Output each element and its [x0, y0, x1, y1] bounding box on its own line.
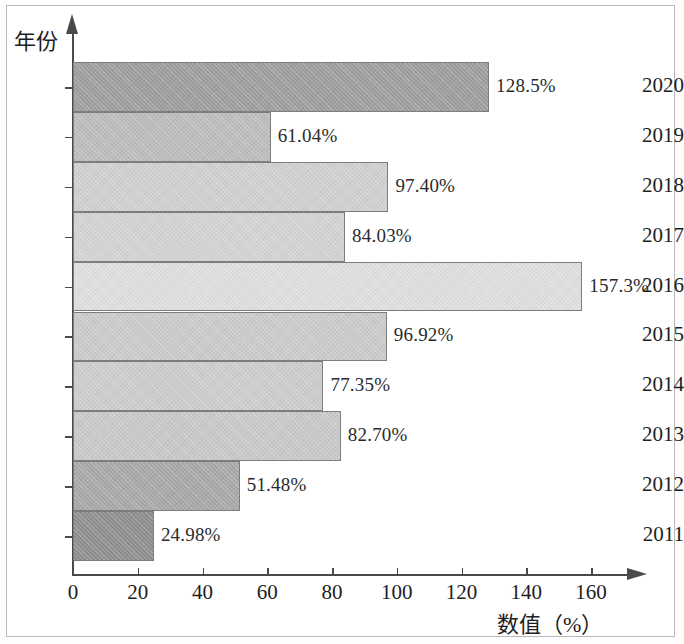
bar-value-label: 128.5%	[496, 75, 556, 97]
y-axis-tick	[65, 536, 73, 538]
x-axis-tick-label: 20	[108, 580, 168, 605]
bar-value-label: 51.48%	[247, 474, 307, 496]
x-axis-tick-label: 0	[43, 580, 103, 605]
bar-value-label: 24.98%	[161, 524, 221, 546]
x-axis-tick	[203, 568, 205, 576]
x-axis-tick	[138, 568, 140, 576]
x-axis-tick	[526, 568, 528, 576]
x-axis-line	[72, 574, 633, 576]
y-axis-tick-label: 2018	[626, 173, 684, 198]
bar	[73, 411, 341, 461]
y-axis-tick-label: 2015	[626, 322, 684, 347]
x-axis-tick	[462, 568, 464, 576]
y-axis-tick	[65, 187, 73, 189]
bar	[73, 62, 489, 112]
y-axis-tick-label: 2014	[626, 372, 684, 397]
bar	[73, 162, 388, 212]
y-axis-tick	[65, 486, 73, 488]
y-axis-tick-label: 2019	[626, 123, 684, 148]
bar-value-label: 84.03%	[352, 225, 412, 247]
bar-value-label: 82.70%	[348, 424, 408, 446]
bar-chart: 年份 数值（%） 128.5%61.04%97.40%84.03%157.3%9…	[0, 0, 684, 644]
figure-page: 年份 数值（%） 128.5%61.04%97.40%84.03%157.3%9…	[0, 0, 684, 644]
y-axis-tick-label: 2011	[626, 522, 684, 547]
y-axis-tick-label: 2020	[626, 73, 684, 98]
x-axis-tick-label: 140	[496, 580, 556, 605]
bar-value-label: 96.92%	[394, 324, 454, 346]
y-axis-tick	[65, 237, 73, 239]
x-axis-tick-label: 80	[302, 580, 362, 605]
y-axis-title: 年份	[14, 23, 58, 55]
y-axis-arrow-icon	[66, 14, 78, 34]
x-axis-title: 数值（%）	[497, 606, 603, 638]
bar-value-label: 61.04%	[278, 125, 338, 147]
x-axis-tick	[591, 568, 593, 576]
bar	[73, 112, 271, 162]
x-axis-tick-label: 60	[237, 580, 297, 605]
x-axis-tick	[267, 568, 269, 576]
x-axis-tick-label: 120	[432, 580, 492, 605]
bar	[73, 461, 240, 511]
x-axis-arrow-icon	[627, 568, 647, 580]
bar	[73, 262, 582, 312]
bar	[73, 511, 154, 561]
y-axis-tick	[65, 87, 73, 89]
x-axis-tick	[332, 568, 334, 576]
y-axis-tick	[65, 137, 73, 139]
bar-value-label: 97.40%	[395, 175, 455, 197]
y-axis-tick-label: 2016	[626, 273, 684, 298]
y-axis-tick	[65, 386, 73, 388]
y-axis-tick-label: 2013	[626, 422, 684, 447]
y-axis-tick	[65, 287, 73, 289]
y-axis-tick	[65, 336, 73, 338]
y-axis-tick-label: 2017	[626, 223, 684, 248]
x-axis-tick	[397, 568, 399, 576]
bar	[73, 361, 323, 411]
x-axis-tick-label: 160	[561, 580, 621, 605]
bar-value-label: 77.35%	[330, 374, 390, 396]
x-axis-tick-label: 40	[173, 580, 233, 605]
y-axis-tick	[65, 436, 73, 438]
y-axis-tick-label: 2012	[626, 472, 684, 497]
bar	[73, 312, 387, 362]
bar	[73, 212, 345, 262]
x-axis-tick-label: 100	[367, 580, 427, 605]
